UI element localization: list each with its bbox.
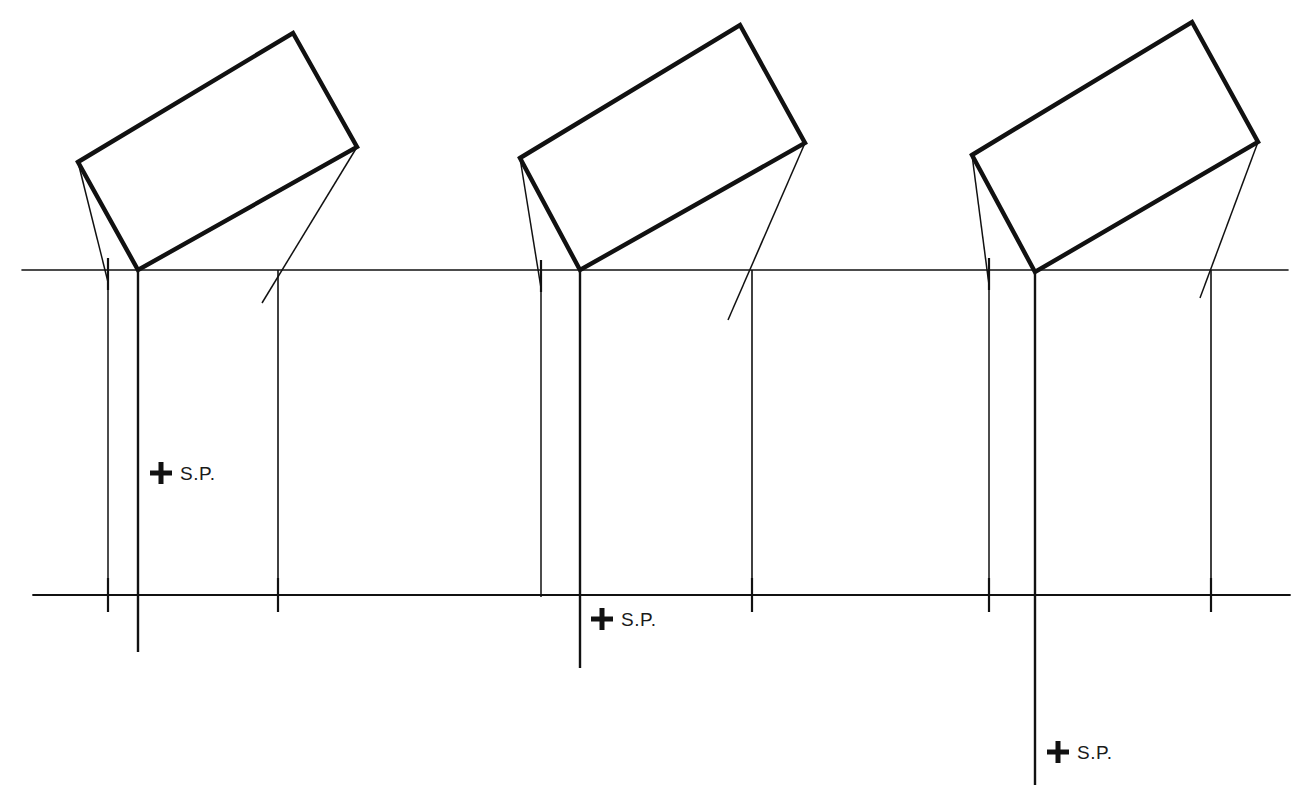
- right-projection-line-1: [262, 147, 357, 303]
- station-point-marker-1: S.P.: [150, 462, 215, 484]
- station-point-label-3: S.P.: [1077, 742, 1112, 763]
- rotated-rectangle-3: [972, 22, 1258, 272]
- right-projection-line-2: [728, 143, 805, 320]
- reference-lines: [22, 270, 1290, 595]
- construction-group-1: S.P.: [78, 33, 357, 652]
- station-point-marker-2: S.P.: [591, 608, 656, 630]
- station-point-label-1: S.P.: [180, 463, 215, 484]
- construction-group-2: S.P.: [520, 25, 805, 668]
- station-point-marker-3: S.P.: [1047, 741, 1112, 763]
- rotated-rectangle-2: [520, 25, 805, 270]
- station-point-label-2: S.P.: [621, 609, 656, 630]
- construction-group-3: S.P.: [972, 22, 1258, 785]
- rotated-rectangle-1: [78, 33, 357, 270]
- technical-drawing: S.P. S.P.: [0, 0, 1310, 807]
- perspective-drawing-canvas: S.P. S.P.: [0, 0, 1310, 807]
- right-projection-line-3: [1200, 142, 1258, 298]
- tick-marks: [108, 258, 1211, 612]
- left-projection-line-1: [78, 162, 108, 282]
